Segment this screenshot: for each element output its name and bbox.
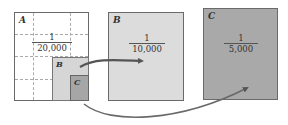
arrows-layer bbox=[0, 0, 288, 125]
arrow-c-icon bbox=[84, 88, 247, 117]
arrow-b-icon bbox=[80, 60, 142, 67]
